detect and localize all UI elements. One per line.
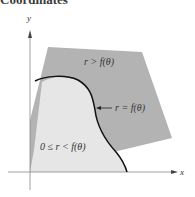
inner-region-label: 0 ≤ r < f(θ)	[40, 141, 86, 153]
x-axis-label: x	[179, 167, 184, 177]
curve-label: r = f(θ)	[115, 102, 146, 114]
y-axis-label: y	[26, 13, 31, 23]
x-axis-arrow-icon	[171, 170, 178, 174]
y-axis-arrow-icon	[28, 30, 32, 38]
outer-region-label: r > f(θ)	[84, 56, 115, 68]
polar-region-diagram: y x r > f(θ) r = f(θ) 0 ≤ r < f(θ)	[0, 0, 195, 197]
